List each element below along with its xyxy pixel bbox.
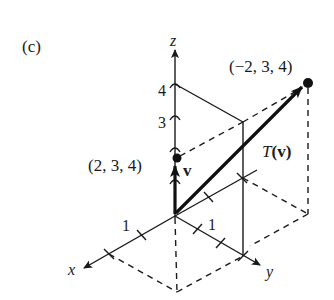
point-v: [173, 154, 182, 163]
dashed-x-to-base: [109, 254, 177, 292]
Tv-label-arg: (v): [271, 142, 291, 161]
x-tick-label-1: 1: [122, 217, 130, 234]
y-tick-2: [216, 238, 225, 248]
vector-v-label: v: [183, 161, 192, 180]
z-tick-label-4: 4: [158, 82, 166, 99]
dashed-v-to-box: [180, 122, 243, 156]
dashed-guides: [109, 88, 308, 292]
x-tick-2: [104, 249, 114, 259]
dashed-base-to-y: [177, 256, 243, 292]
negx-tick-1: [204, 192, 213, 202]
y-axis-label: y: [264, 263, 274, 281]
point-v-label: (2, 3, 4): [88, 156, 142, 175]
point-Tv-label: (−2, 3, 4): [229, 57, 292, 76]
dashed-negx-to-corner: [243, 178, 308, 214]
negx-tick-2: [237, 173, 247, 183]
y-tick-label-1: 1: [208, 216, 216, 233]
x-axis-label: x: [67, 261, 75, 278]
y-axis: [175, 216, 260, 265]
dashed-corner-to-y: [250, 214, 308, 246]
z-axis-label: z: [169, 32, 177, 49]
x-tick-1: [137, 230, 146, 240]
z-tick-label-3: 3: [158, 114, 166, 131]
dashed-origin-down: [175, 218, 177, 292]
y-tick-1: [193, 224, 202, 234]
z4-to-box-top: [175, 84, 243, 122]
vector-Tv-label: T(v): [262, 142, 291, 161]
coordinate-diagram: (c): [0, 0, 334, 300]
point-Tv: [303, 78, 313, 88]
panel-label: (c): [22, 37, 41, 56]
